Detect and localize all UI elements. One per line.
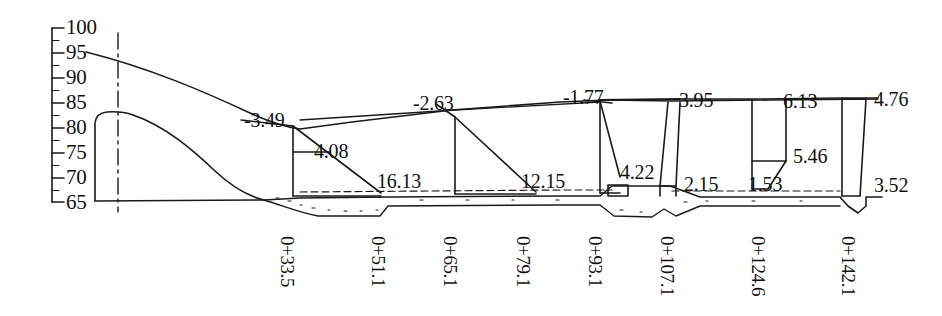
- deck-line-heavy: [600, 99, 680, 100]
- axis-tick-95: 95: [66, 42, 86, 63]
- station-label-0-65-1: 0+65.1: [441, 236, 460, 287]
- station-label-0-124-6: 0+124.6: [749, 236, 768, 296]
- axis-tick-65: 65: [66, 192, 86, 213]
- annotation-station-33-5: [241, 120, 381, 196]
- station-label-0-142-1: 0+142.1: [839, 236, 858, 296]
- dim-slope-93-1: -1.77: [563, 87, 604, 107]
- axis-tick-80: 80: [66, 117, 86, 138]
- dim-slope-65-1: -2.63: [413, 93, 454, 113]
- axis-tick-75: 75: [66, 142, 86, 163]
- elevation-axis-minor-ticks: [52, 41, 59, 191]
- axis-tick-70: 70: [66, 167, 86, 188]
- station-label-0-51-1: 0+51.1: [369, 236, 388, 287]
- dim-depth-142-1: 3.52: [874, 175, 908, 195]
- dim-depth-93-1: 4.22: [620, 162, 654, 182]
- axis-tick-90: 90: [66, 67, 86, 88]
- station-label-0-107-1: 0+107.1: [658, 236, 677, 296]
- lower-rock-line: [264, 200, 840, 217]
- dim-depth-107-1: 2.15: [684, 174, 718, 194]
- station-label-0-79-1: 0+79.1: [514, 236, 533, 287]
- station-label-0-93-1: 0+93.1: [586, 236, 605, 287]
- left-embankment-outline: [95, 112, 264, 201]
- dim-slope-107-1: 3.95: [679, 90, 713, 110]
- dim-slope-142-1: 4.76: [874, 89, 908, 109]
- station-label-0-33-5: 0+33.5: [278, 236, 297, 287]
- axis-tick-100: 100: [66, 17, 97, 38]
- dim-base-124-6: 1.53: [748, 174, 782, 194]
- profile-drawing-sheet: 100 95 90 85 80 75 70 65 -3.49 4.08 16.1…: [0, 0, 942, 316]
- dim-slope-33-5: -3.49: [244, 110, 285, 130]
- axis-tick-85: 85: [66, 92, 86, 113]
- dim-depth-33-5: 4.08: [314, 141, 348, 161]
- dim-width-65-1: 12.15: [521, 171, 565, 191]
- terrain-surface-line: [86, 52, 878, 129]
- dim-width-33-5: 16.13: [377, 171, 421, 191]
- annotation-station-107-1: [660, 102, 680, 196]
- dim-depth-124-6: 5.46: [793, 146, 827, 166]
- annotation-station-142-1: [842, 99, 866, 196]
- dim-slope-124-6: 6.13: [783, 91, 817, 111]
